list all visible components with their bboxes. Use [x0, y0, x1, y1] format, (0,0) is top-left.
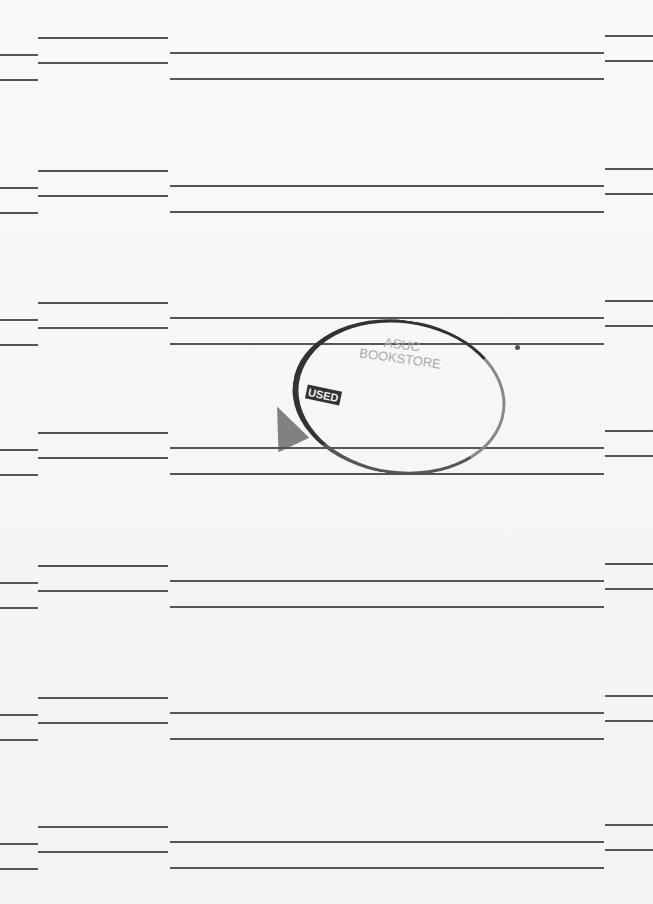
ruled-line — [170, 185, 604, 187]
ruled-line — [170, 606, 604, 608]
ruled-line — [605, 588, 653, 590]
ruled-line — [170, 738, 604, 740]
ruled-line — [0, 212, 38, 214]
ruled-line — [170, 78, 604, 80]
ruled-line — [605, 720, 653, 722]
ink-spot — [515, 345, 520, 350]
ruled-line — [0, 607, 38, 609]
ruled-line — [0, 54, 38, 56]
ruled-line — [0, 739, 38, 741]
ruled-line — [38, 302, 168, 304]
ruled-line — [170, 841, 604, 843]
ruled-line — [170, 473, 604, 475]
ruled-line — [0, 344, 38, 346]
ruled-line — [0, 319, 38, 321]
ruled-line — [605, 695, 653, 697]
ruled-line — [38, 62, 168, 64]
ruled-line — [605, 849, 653, 851]
ruled-line — [38, 826, 168, 828]
ruled-line — [170, 712, 604, 714]
ruled-line — [605, 325, 653, 327]
ruled-line — [605, 430, 653, 432]
ruled-line — [605, 563, 653, 565]
ruled-line — [605, 168, 653, 170]
ruled-page — [0, 0, 653, 904]
ruled-line — [170, 867, 604, 869]
ruled-line — [0, 868, 38, 870]
ruled-line — [0, 582, 38, 584]
ruled-line — [38, 195, 168, 197]
ruled-line — [605, 300, 653, 302]
ruled-line — [0, 843, 38, 845]
ruled-line — [605, 193, 653, 195]
ruled-line — [38, 851, 168, 853]
ruled-line — [0, 187, 38, 189]
ruled-line — [0, 449, 38, 451]
ruled-line — [0, 714, 38, 716]
ruled-line — [170, 52, 604, 54]
ruled-line — [605, 455, 653, 457]
ruled-line — [38, 170, 168, 172]
ruled-line — [38, 457, 168, 459]
ruled-line — [605, 824, 653, 826]
ruled-line — [38, 327, 168, 329]
ruled-line — [38, 37, 168, 39]
ruled-line — [38, 722, 168, 724]
ruled-line — [38, 432, 168, 434]
ruled-line — [605, 60, 653, 62]
ruled-line — [170, 211, 604, 213]
ruled-line — [38, 590, 168, 592]
ruled-line — [0, 474, 38, 476]
ruled-line — [170, 580, 604, 582]
ruled-line — [38, 565, 168, 567]
ruled-line — [605, 35, 653, 37]
ruled-line — [0, 79, 38, 81]
ruled-line — [38, 697, 168, 699]
